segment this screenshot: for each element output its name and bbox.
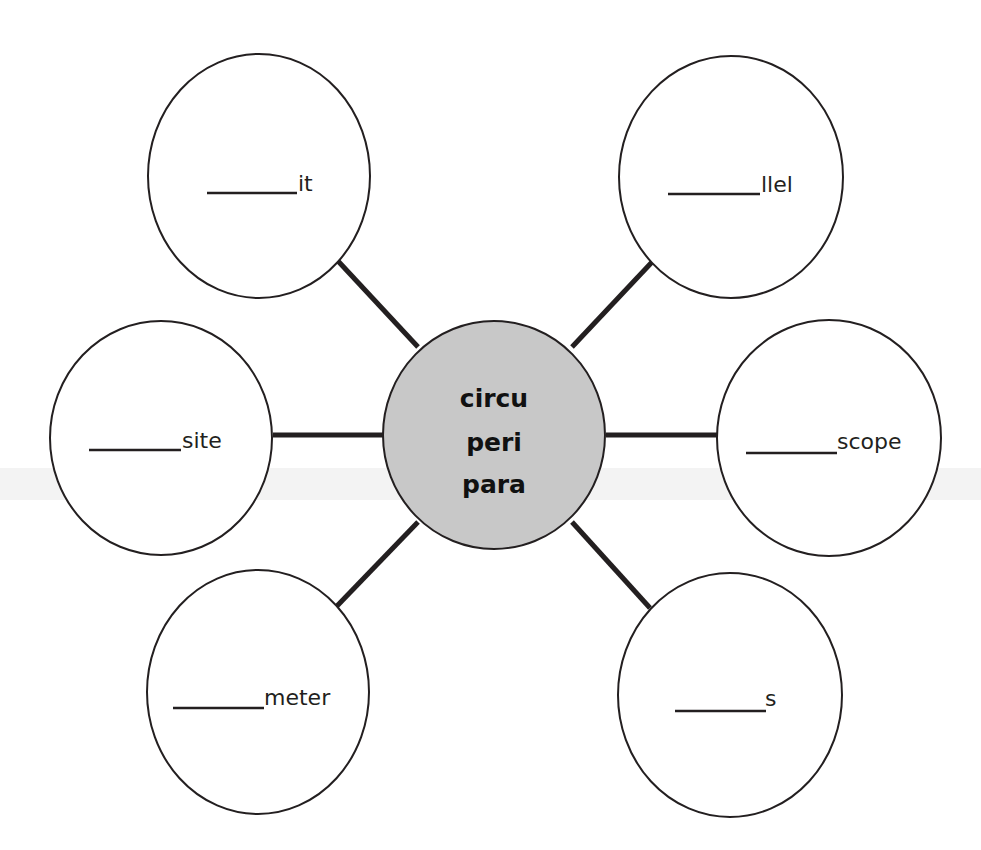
node-circle [619,56,843,298]
node-bottom-right: s [618,573,842,817]
node-top-left: it [148,54,370,298]
word-web-diagram: circu peri para it llel site scope meter… [0,0,981,850]
center-prefix-2: peri [466,428,522,457]
word-suffix: s [765,686,776,711]
node-circle [717,320,941,556]
node-top-right: llel [619,56,843,298]
node-bottom-left: meter [147,570,369,814]
word-suffix: llel [761,172,793,197]
connector-top-left [338,261,418,347]
node-circle [618,573,842,817]
word-suffix: site [182,428,222,453]
node-left: site [50,321,272,555]
word-suffix: meter [264,685,331,710]
center-prefix-3: para [462,470,526,499]
node-circle [147,570,369,814]
connector-bottom-left [337,522,418,606]
word-suffix: it [298,171,313,196]
center-hub: circu peri para [383,321,605,549]
node-circle [50,321,272,555]
node-right: scope [717,320,941,556]
center-prefix-1: circu [460,384,528,413]
node-circle [148,54,370,298]
connector-top-right [572,261,653,347]
word-suffix: scope [837,429,902,454]
connector-bottom-right [572,522,650,608]
